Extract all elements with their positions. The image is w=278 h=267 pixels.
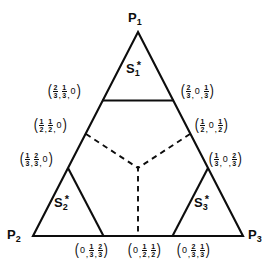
paren-close: ) (206, 243, 210, 257)
paren-open: ( (128, 243, 132, 257)
paren-close: ) (104, 243, 108, 257)
coord-label-right-mid: (12,0,12) (194, 118, 229, 133)
comma-separator: , (30, 159, 33, 168)
vertex-label-p2: P2 (7, 228, 21, 241)
comma-separator: , (53, 125, 56, 134)
coord-label-bottom-center: (0,12,12) (127, 243, 162, 258)
comma-separator: , (58, 91, 61, 100)
comma-separator: , (187, 250, 190, 259)
comma-separator: , (196, 250, 199, 259)
paren-open: ( (195, 118, 199, 132)
comma-separator: , (147, 250, 150, 259)
region-label-s1: S1* (126, 62, 144, 75)
comma-separator: , (205, 125, 208, 134)
coord-label-left-mid: (12,12,0) (33, 118, 68, 133)
region-label-s3: S3* (194, 196, 212, 209)
fraction: 23 (97, 243, 103, 258)
fraction: 12 (217, 118, 223, 133)
fraction: 13 (203, 84, 209, 99)
fraction: 13 (199, 243, 205, 258)
vertex-label-p1: P1 (128, 11, 142, 24)
scalar-value: 0 (42, 155, 48, 164)
comma-separator: , (228, 159, 231, 168)
s2-edge-line (68, 168, 104, 236)
paren-close: ) (77, 84, 81, 98)
coord-label-right-upper: (23,0,13) (180, 84, 215, 99)
fraction: 12 (150, 243, 156, 258)
comma-separator: , (191, 91, 194, 100)
paren-close: ) (224, 118, 228, 132)
comma-separator: , (39, 159, 42, 168)
paren-open: ( (34, 118, 38, 132)
paren-open: ( (20, 152, 24, 166)
paren-open: ( (75, 243, 79, 257)
paren-open: ( (177, 243, 181, 257)
paren-close: ) (63, 118, 67, 132)
comma-separator: , (67, 91, 70, 100)
paren-open: ( (181, 84, 185, 98)
scalar-value: 0 (70, 87, 76, 96)
paren-close: ) (238, 152, 242, 166)
comma-separator: , (94, 250, 97, 259)
comma-separator: , (85, 250, 88, 259)
simplex-diagram: P1 P2 P3 S1* S2* S3* (23,13,0) (23,0,13)… (0, 0, 278, 267)
paren-close: ) (157, 243, 161, 257)
comma-separator: , (219, 159, 222, 168)
comma-separator: , (200, 91, 203, 100)
comma-separator: , (44, 125, 47, 134)
comma-separator: , (138, 250, 141, 259)
dashed-right-branch (138, 134, 190, 168)
paren-open: ( (209, 152, 213, 166)
comma-separator: , (214, 125, 217, 134)
coord-label-bottom-left: (0,13,23) (74, 243, 109, 258)
fraction: 23 (231, 152, 237, 167)
vertex-label-p3: P3 (248, 228, 262, 241)
dashed-left-branch (86, 134, 138, 168)
coord-label-left-lower: (13,23,0) (19, 152, 54, 167)
coord-label-bottom-right: (0,23,13) (176, 243, 211, 258)
coord-label-left-upper: (23,13,0) (47, 84, 82, 99)
region-label-s2: S2* (54, 196, 72, 209)
paren-close: ) (49, 152, 53, 166)
diagram-canvas (0, 0, 278, 267)
paren-close: ) (210, 84, 214, 98)
scalar-value: 0 (56, 121, 62, 130)
paren-open: ( (48, 84, 52, 98)
coord-label-right-lower: (13,0,23) (208, 152, 243, 167)
